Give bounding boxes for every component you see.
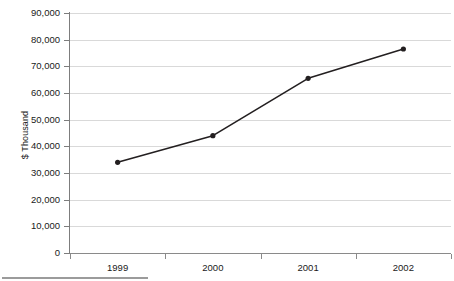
series-markers-1 <box>115 46 406 165</box>
data-point-marker <box>401 46 406 51</box>
line-chart: $ Thousand 010,00020,00030,00040,00050,0… <box>0 0 454 281</box>
data-point-marker <box>115 160 120 165</box>
data-point-marker <box>210 133 215 138</box>
series-line-1 <box>118 49 404 162</box>
series-layer <box>0 0 454 281</box>
bottom-rule-decoration <box>2 277 148 279</box>
data-point-marker <box>306 76 311 81</box>
